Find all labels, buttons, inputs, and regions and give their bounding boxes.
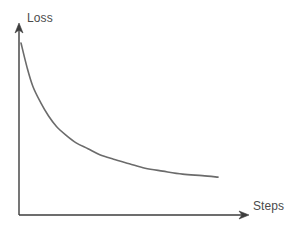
- x-axis-label: Steps: [253, 200, 284, 213]
- series-group: [21, 43, 218, 177]
- loss-curve-line: [21, 43, 218, 177]
- y-axis-label: Loss: [27, 12, 53, 25]
- axes-group: [15, 23, 249, 219]
- loss-curve-diagram: Loss Steps: [0, 0, 299, 236]
